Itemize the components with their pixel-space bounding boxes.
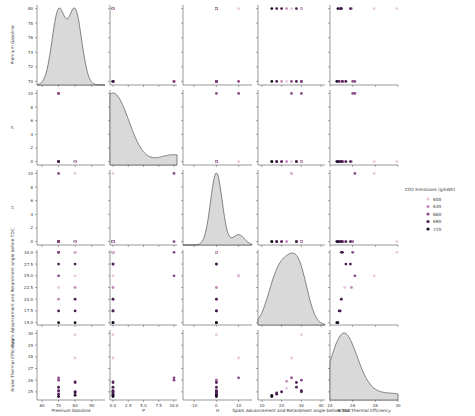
y-tick-label: 0 bbox=[30, 159, 33, 164]
scatter-point bbox=[57, 379, 60, 382]
scatter-point bbox=[349, 263, 352, 266]
scatter-point bbox=[74, 390, 77, 393]
scatter-point bbox=[340, 298, 343, 301]
y-tick-label: 10 bbox=[28, 171, 34, 176]
y-tick-label: 27.5 bbox=[24, 262, 33, 267]
legend-marker bbox=[426, 220, 429, 223]
scatter-point bbox=[74, 172, 77, 175]
scatter-point bbox=[280, 80, 283, 83]
panel-3-4 bbox=[328, 250, 398, 327]
scatter-point bbox=[270, 394, 273, 397]
scatter-point bbox=[57, 240, 60, 243]
x-tick-label: 60 bbox=[39, 403, 45, 408]
scatter-point bbox=[300, 80, 303, 83]
scatter-point bbox=[74, 251, 77, 254]
scatter-point bbox=[215, 7, 218, 10]
scatter-point bbox=[354, 274, 357, 277]
y-tick-label: 10 bbox=[28, 91, 34, 96]
scatter-point bbox=[295, 386, 298, 389]
scatter-point bbox=[337, 321, 340, 324]
pairplot-svg: 7072747678800246810024681015.017.520.022… bbox=[0, 0, 475, 416]
scatter-point bbox=[112, 333, 115, 336]
scatter-point bbox=[57, 389, 60, 392]
scatter-point bbox=[112, 7, 115, 10]
scatter-point bbox=[74, 357, 77, 360]
y-tick-label: 4 bbox=[30, 212, 33, 217]
kde-curve bbox=[37, 8, 105, 85]
scatter-point bbox=[295, 7, 298, 10]
scatter-point bbox=[349, 240, 352, 243]
scatter-point bbox=[112, 286, 115, 289]
scatter-point bbox=[173, 240, 176, 243]
panel-0-2 bbox=[181, 5, 252, 87]
panel-4-3: 10203040 bbox=[256, 330, 325, 408]
panel-4-1: 0.02.55.07.510.0 bbox=[108, 330, 179, 408]
scatter-point bbox=[215, 80, 218, 83]
scatter-point bbox=[396, 7, 399, 10]
scatter-point bbox=[340, 240, 343, 243]
scatter-point bbox=[57, 321, 60, 324]
scatter-point bbox=[270, 7, 273, 10]
scatter-point bbox=[74, 286, 77, 289]
y-axis-label: Brake Thermal Efficiency bbox=[10, 338, 15, 392]
scatter-point bbox=[215, 92, 218, 95]
scatter-point bbox=[270, 80, 273, 83]
scatter-point bbox=[215, 321, 218, 324]
y-axis-label: Spark Advancement and Retardment angle b… bbox=[10, 228, 15, 346]
y-tick-label: 30 bbox=[28, 331, 34, 336]
scatter-point bbox=[57, 263, 60, 266]
y-tick-label: 25 bbox=[28, 389, 34, 394]
scatter-point bbox=[343, 286, 346, 289]
scatter-point bbox=[373, 274, 376, 277]
scatter-point bbox=[57, 251, 60, 254]
scatter-point bbox=[285, 387, 288, 390]
y-axis-label: Premium Gasoline bbox=[10, 25, 15, 64]
scatter-point bbox=[373, 160, 376, 163]
scatter-point bbox=[350, 286, 353, 289]
legend-label: 720 bbox=[433, 227, 441, 232]
scatter-point bbox=[349, 160, 352, 163]
scatter-point bbox=[290, 172, 293, 175]
scatter-point bbox=[300, 333, 303, 336]
scatter-point bbox=[173, 379, 176, 382]
scatter-point bbox=[280, 390, 283, 393]
x-tick-label: 10.0 bbox=[170, 403, 179, 408]
scatter-point bbox=[290, 160, 293, 163]
scatter-point bbox=[237, 357, 240, 360]
y-tick-label: 6 bbox=[30, 198, 33, 203]
scatter-point bbox=[237, 274, 240, 277]
scatter-point bbox=[112, 263, 115, 266]
y-tick-label: 27 bbox=[28, 366, 34, 371]
y-axis-label: P bbox=[10, 126, 15, 129]
y-tick-label: 4 bbox=[30, 132, 33, 137]
scatter-point bbox=[290, 7, 293, 10]
scatter-point bbox=[300, 390, 303, 393]
scatter-point bbox=[112, 251, 115, 254]
scatter-point bbox=[112, 357, 115, 360]
x-tick-label: 7.5 bbox=[156, 403, 163, 408]
x-tick-label: -10 bbox=[191, 403, 198, 408]
scatter-point bbox=[285, 80, 288, 83]
panel-0-4 bbox=[328, 5, 398, 87]
scatter-point bbox=[57, 298, 60, 301]
legend-label: 600 bbox=[433, 197, 441, 202]
scatter-point bbox=[112, 386, 115, 389]
panel-3-0: 15.017.520.022.525.027.530.0 bbox=[24, 250, 105, 327]
x-axis-label: H bbox=[216, 408, 219, 413]
scatter-point bbox=[112, 390, 115, 393]
scatter-point bbox=[112, 80, 115, 83]
scatter-point bbox=[57, 376, 60, 379]
scatter-point bbox=[57, 160, 60, 163]
scatter-point bbox=[237, 92, 240, 95]
y-tick-label: 26 bbox=[28, 378, 34, 383]
scatter-point bbox=[57, 92, 60, 95]
y-tick-label: 72 bbox=[28, 64, 34, 69]
scatter-point bbox=[215, 251, 218, 254]
panel-1-4 bbox=[328, 90, 398, 167]
panel-4-0: 25262728293060708090 bbox=[28, 330, 105, 408]
scatter-point bbox=[112, 321, 115, 324]
scatter-point bbox=[57, 274, 60, 277]
scatter-point bbox=[285, 160, 288, 163]
scatter-point bbox=[396, 240, 399, 243]
scatter-point bbox=[215, 310, 218, 313]
